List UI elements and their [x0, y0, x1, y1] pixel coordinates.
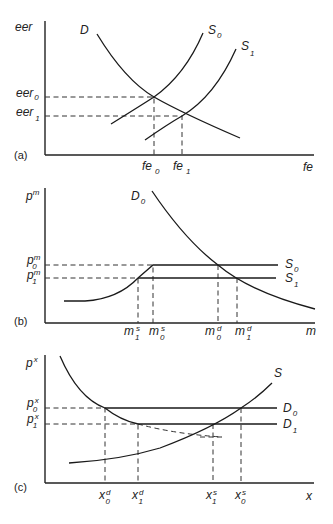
panel-a-label-S0: S0	[208, 23, 222, 40]
panel-a-supply-curve-S0	[111, 33, 203, 124]
panel-c-tick-xd1: xd1	[131, 488, 144, 506]
panel-c-tick-xd0: xd0	[98, 488, 111, 506]
panel-b-tick-md1: md1	[235, 324, 252, 342]
panel-a-tick-fe1: fe1	[173, 159, 190, 176]
panel-a: eer fe D S0 S1 eer0 eer1 fe0 fe1 (a)	[14, 20, 314, 176]
panel-c-y-label: px	[25, 355, 39, 370]
panel-b-guide-p0	[45, 265, 153, 323]
panel-c-tick-xs1: xs1	[205, 488, 217, 506]
panel-c-demand-curve-D0	[60, 356, 277, 408]
panel-b-tag: (b)	[14, 315, 27, 327]
panel-b-x-label: m	[306, 324, 316, 338]
panel-b: pm m D0 S0 S1 pm0 pm1 ms1 ms0 md0 md1 (b…	[14, 188, 316, 342]
diagram-canvas: eer fe D S0 S1 eer0 eer1 fe0 fe1 (a) pm …	[0, 0, 333, 524]
panel-a-label-S1: S1	[241, 39, 254, 58]
panel-a-label-D: D	[80, 23, 89, 37]
panel-c-label-S: S	[274, 366, 282, 380]
panel-a-demand-curve-D	[97, 34, 240, 138]
panel-c-supply-curve-S	[69, 383, 272, 463]
panel-c-label-D0: D0	[283, 401, 298, 418]
panel-c-label-D1: D1	[283, 417, 297, 435]
panel-c-demand-line-D1	[105, 408, 277, 424]
panel-a-y-label: eer	[15, 20, 33, 34]
panel-c-tick-p1: px1	[26, 412, 40, 430]
panel-b-y-label: pm	[25, 188, 40, 203]
panel-c-tag: (c)	[14, 481, 27, 493]
panel-c-x-label: x	[305, 489, 313, 503]
panel-b-label-D0: D0	[131, 189, 146, 206]
panel-b-tick-p1: pm1	[26, 268, 41, 286]
panel-a-tag: (a)	[14, 149, 27, 161]
panel-b-tick-md0: md0	[205, 324, 222, 342]
panel-a-tick-eer0: eer0	[16, 86, 39, 102]
panel-c-guide-p1	[45, 424, 138, 483]
panel-a-supply-curve-S1	[145, 49, 236, 140]
panel-a-tick-fe0: fe0	[142, 159, 160, 176]
panel-b-tick-ms1: ms1	[124, 324, 140, 342]
panel-b-tick-ms0: ms0	[149, 324, 165, 342]
panel-b-demand-curve-D0	[152, 191, 315, 309]
panel-c-guide-p0	[45, 408, 105, 483]
panel-a-guide-eq0	[45, 97, 154, 155]
panel-a-x-label: fe	[303, 160, 313, 174]
panel-c-tick-xs0: xs0	[234, 488, 246, 506]
panel-a-tick-eer1: eer1	[16, 105, 40, 123]
panel-c: px x S D0 D1 px0 px1 xd0 xd1 xs1 xs0 (c)	[14, 355, 314, 506]
